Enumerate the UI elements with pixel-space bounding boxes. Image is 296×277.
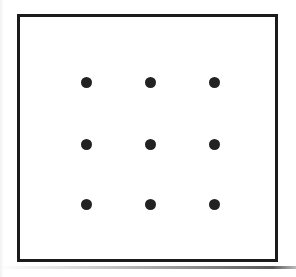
grid-dot — [145, 139, 156, 150]
grid-dot — [81, 139, 92, 150]
nine-dot-grid — [20, 17, 275, 259]
grid-dot — [145, 77, 156, 88]
grid-dot — [145, 199, 156, 210]
grid-dot — [209, 199, 220, 210]
grid-dot — [81, 199, 92, 210]
grid-dot — [209, 139, 220, 150]
grid-dot — [81, 77, 92, 88]
scan-shadow-artifact-bottom — [0, 266, 296, 269]
puzzle-frame-rectangle — [17, 14, 278, 262]
scan-edge-artifact-left — [0, 0, 4, 277]
grid-dot — [209, 77, 220, 88]
figure-canvas — [0, 0, 296, 277]
